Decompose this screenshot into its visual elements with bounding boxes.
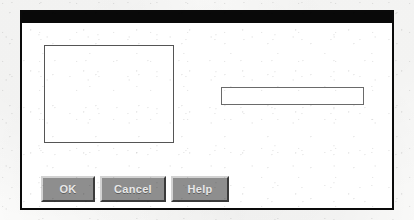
dialog-button-row: OK Cancel Help: [41, 176, 229, 202]
list-box[interactable]: [44, 45, 174, 143]
cancel-button[interactable]: Cancel: [100, 176, 166, 202]
cancel-button-label: Cancel: [114, 184, 152, 195]
ok-button-label: OK: [59, 184, 76, 195]
dialog-client-area: OK Cancel Help: [22, 23, 392, 208]
ok-button[interactable]: OK: [41, 176, 95, 202]
help-button-label: Help: [187, 184, 212, 195]
list-box-items: [45, 46, 173, 50]
text-input-field[interactable]: [221, 87, 364, 105]
dialog-window: OK Cancel Help: [20, 10, 394, 210]
help-button[interactable]: Help: [171, 176, 229, 202]
title-bar[interactable]: [22, 12, 392, 23]
